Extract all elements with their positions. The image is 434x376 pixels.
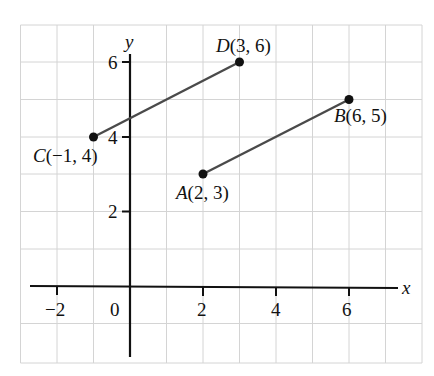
points: A(2, 3) B(6, 5) C(−1, 4) D(3, 6) <box>33 35 387 204</box>
point-a-label: A(2, 3) <box>174 182 229 204</box>
point-b-label: B(6, 5) <box>334 105 387 127</box>
point-a <box>199 170 208 179</box>
point-b <box>345 95 354 104</box>
y-tick-label: 4 <box>108 127 118 148</box>
point-c-label: C(−1, 4) <box>33 145 98 167</box>
x-tick-label: 0 <box>110 299 120 320</box>
x-tick-label: 4 <box>271 299 281 320</box>
y-tick-label: 6 <box>108 52 118 73</box>
point-c <box>89 133 98 142</box>
x-tick-label: 6 <box>342 299 352 320</box>
x-tick-label: 2 <box>197 299 207 320</box>
point-d <box>235 58 244 67</box>
y-axis-label: y <box>123 31 134 52</box>
coordinate-plane: x y −2 0 2 4 6 2 4 6 A(2, 3) B(6, 5) C(−… <box>0 0 434 376</box>
x-axis-label: x <box>401 277 411 298</box>
x-axis <box>30 286 398 288</box>
x-tick-label: −2 <box>45 299 65 320</box>
segments <box>94 62 350 174</box>
point-d-label: D(3, 6) <box>215 35 271 57</box>
y-tick-label: 2 <box>108 201 118 222</box>
